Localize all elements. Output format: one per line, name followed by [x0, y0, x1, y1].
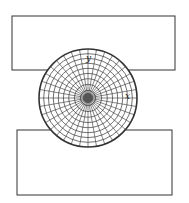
y-axis-label: y — [85, 53, 92, 63]
x-axis-label: x — [125, 91, 130, 101]
polar-mesh-disc — [39, 49, 137, 147]
disc-diagram: y x — [0, 0, 189, 203]
